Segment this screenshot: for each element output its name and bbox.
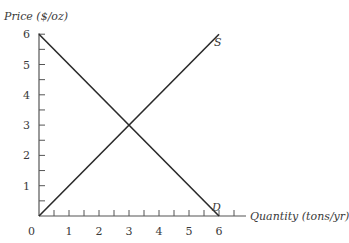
supply-label: S bbox=[214, 36, 222, 49]
demand-label: D bbox=[211, 201, 221, 214]
y-tick-label: 1 bbox=[23, 180, 30, 193]
y-axis-label: Price ($/oz) bbox=[3, 10, 68, 23]
y-tick-label: 4 bbox=[23, 89, 30, 102]
x-tick-label: 6 bbox=[216, 225, 223, 238]
origin-label: 0 bbox=[28, 225, 35, 238]
x-axis-label: Quantity (tons/yr) bbox=[250, 210, 349, 223]
x-tick-label: 1 bbox=[66, 225, 73, 238]
y-tick-label: 2 bbox=[23, 149, 30, 162]
series-lines bbox=[39, 34, 219, 216]
y-tick-label: 5 bbox=[23, 59, 30, 72]
x-tick-label: 3 bbox=[126, 225, 133, 238]
supply-demand-chart: Price ($/oz) Quantity (tons/yr) S D 0 12… bbox=[0, 0, 349, 243]
x-tick-label: 2 bbox=[96, 225, 103, 238]
y-tick-label: 3 bbox=[23, 119, 30, 132]
x-tick-label: 4 bbox=[156, 225, 163, 238]
x-tick-label: 5 bbox=[186, 225, 193, 238]
y-tick-label: 6 bbox=[23, 28, 30, 41]
axes bbox=[39, 33, 246, 216]
tick-labels: 123456123456 bbox=[23, 28, 223, 238]
